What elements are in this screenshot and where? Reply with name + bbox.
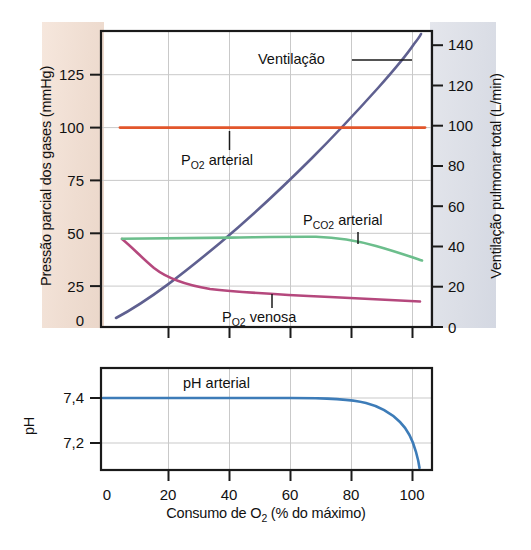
annotation-ph-arterial: pH arterial	[183, 375, 250, 391]
ph-panel-bottom-ticks	[169, 470, 413, 481]
x-axis-title-suffix: (% do máximo)	[267, 505, 366, 521]
x-tick-60: 60	[270, 486, 310, 503]
ph-panel-left-ticks	[90, 398, 101, 443]
x-tick-80: 80	[331, 486, 371, 503]
ph-panel-tick-72: 7,2	[30, 434, 84, 451]
x-tick-20: 20	[148, 486, 188, 503]
figure-root: 125 100 75 50 25 0 140 120 100 80 60 40 …	[0, 0, 531, 550]
x-tick-40: 40	[209, 486, 249, 503]
x-axis-title-text: Consumo de O	[166, 505, 261, 521]
x-tick-100: 100	[392, 486, 432, 503]
ph-panel-frame	[101, 368, 432, 470]
ph-panel-tick-74: 7,4	[30, 389, 84, 406]
curve-ph-arterial	[103, 398, 420, 468]
ph-panel-plot	[0, 0, 531, 550]
ph-panel-horizontal-gridlines	[101, 398, 432, 443]
x-axis-title: Consumo de O2 (% do máximo)	[96, 505, 436, 524]
ph-axis-title: pH	[21, 396, 37, 456]
x-tick-0: 0	[87, 486, 127, 503]
